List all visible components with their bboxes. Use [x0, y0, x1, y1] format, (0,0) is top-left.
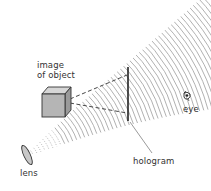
wave-arc — [46, 136, 53, 147]
wave-arc — [98, 82, 125, 126]
wave-arc — [31, 151, 34, 155]
wave-arc — [55, 128, 65, 144]
wave-arc — [40, 142, 45, 150]
wave-arc — [133, 40, 179, 115]
hologram-diagram: image of object lens hologram eye — [0, 0, 211, 191]
wave-arc — [37, 145, 41, 152]
ray-line-bottom — [70, 103, 127, 113]
lens-label: lens — [20, 169, 38, 178]
hologram-label: hologram — [133, 157, 174, 166]
wave-arc — [67, 116, 81, 139]
wave-arc — [101, 79, 129, 125]
lens-shape — [20, 144, 35, 166]
object-label-line2: of object — [37, 71, 75, 80]
hologram-leader-line — [130, 122, 152, 153]
diagram-canvas — [0, 0, 211, 191]
object-label-line1: image — [37, 61, 64, 70]
ray-line-top — [70, 75, 127, 99]
wave-arc — [34, 148, 37, 154]
wave-arc — [43, 139, 49, 149]
wave-arc — [49, 134, 57, 147]
object-cube — [42, 87, 71, 117]
wave-arc — [189, 0, 211, 95]
cube-front — [42, 94, 65, 117]
wave-arc — [120, 56, 158, 119]
eye-label: eye — [183, 105, 199, 114]
wave-arc — [70, 113, 85, 138]
